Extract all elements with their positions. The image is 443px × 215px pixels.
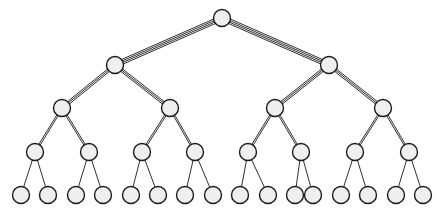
tree-leaf-node[interactable]: [123, 187, 140, 204]
tree-leaf-node[interactable]: [232, 187, 249, 204]
tree-leaf-node[interactable]: [415, 187, 432, 204]
tree-node[interactable]: [134, 144, 151, 161]
tree-node[interactable]: [187, 144, 204, 161]
tree-diagram-canvas: [0, 0, 443, 215]
tree-leaf-node[interactable]: [13, 187, 30, 204]
tree-node[interactable]: [267, 100, 284, 117]
tree-node[interactable]: [107, 57, 124, 74]
tree-node[interactable]: [240, 144, 257, 161]
tree-node[interactable]: [214, 10, 231, 27]
tree-diagram: [0, 0, 443, 215]
tree-leaf-node[interactable]: [205, 187, 222, 204]
tree-leaf-node[interactable]: [287, 187, 304, 204]
tree-node[interactable]: [401, 144, 418, 161]
tree-leaf-node[interactable]: [68, 187, 85, 204]
tree-leaf-node[interactable]: [95, 187, 112, 204]
tree-leaf-node[interactable]: [305, 187, 322, 204]
tree-leaf-node[interactable]: [150, 187, 167, 204]
tree-leaf-node[interactable]: [40, 187, 57, 204]
tree-node[interactable]: [321, 57, 338, 74]
tree-leaf-node[interactable]: [333, 187, 350, 204]
tree-leaf-node[interactable]: [177, 187, 194, 204]
tree-node[interactable]: [162, 100, 179, 117]
tree-node[interactable]: [27, 144, 44, 161]
tree-node[interactable]: [347, 144, 364, 161]
tree-leaf-node[interactable]: [260, 187, 277, 204]
tree-node[interactable]: [81, 144, 98, 161]
tree-leaf-node[interactable]: [360, 187, 377, 204]
tree-node[interactable]: [54, 100, 71, 117]
tree-node[interactable]: [375, 100, 392, 117]
tree-leaf-node[interactable]: [388, 187, 405, 204]
tree-node[interactable]: [293, 144, 310, 161]
